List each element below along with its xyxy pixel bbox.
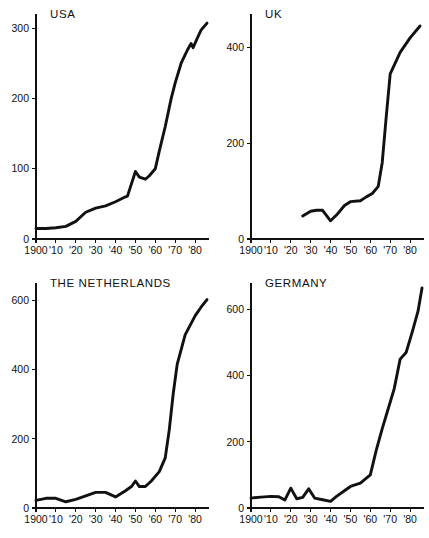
- chart-group-3: 1900'10'20'30'40'50'60'70'800200400600GE…: [226, 277, 424, 525]
- x-tick-label: 1900: [24, 513, 48, 525]
- y-tick-label: 400: [11, 363, 29, 375]
- series-line: [36, 300, 207, 502]
- series-line: [251, 288, 422, 501]
- x-tick-label: '50: [129, 244, 143, 256]
- y-tick-label: 200: [11, 433, 29, 445]
- x-tick-label: '60: [363, 513, 377, 525]
- x-tick-label: '20: [69, 513, 83, 525]
- x-tick-label: '30: [89, 513, 103, 525]
- panel-uk: 1900'10'20'30'40'50'60'70'800200400UK: [215, 0, 429, 269]
- y-tick-label: 0: [23, 233, 29, 245]
- x-tick-label: '60: [148, 513, 162, 525]
- panel-title: USA: [50, 8, 75, 20]
- series-line: [303, 26, 420, 221]
- x-tick-label: '30: [304, 513, 318, 525]
- x-tick-label: '70: [168, 244, 182, 256]
- y-tick-label: 0: [23, 502, 29, 514]
- x-tick-label: '10: [264, 244, 278, 256]
- y-tick-label: 0: [238, 233, 244, 245]
- chart-svg-netherlands: 1900'10'20'30'40'50'60'70'800200400600TH…: [0, 269, 214, 538]
- panel-title: THE NETHERLANDS: [50, 277, 171, 289]
- axis-lines: [251, 283, 424, 508]
- series-line: [36, 23, 207, 228]
- y-tick-label: 400: [226, 41, 244, 53]
- x-tick-label: '80: [403, 513, 417, 525]
- x-tick-label: '50: [344, 513, 358, 525]
- x-tick-label: '80: [188, 244, 202, 256]
- x-tick-label: '20: [284, 244, 298, 256]
- chart-group-2: 1900'10'20'30'40'50'60'70'800200400600TH…: [11, 277, 209, 525]
- x-tick-label: '40: [109, 244, 123, 256]
- x-tick-label: '80: [403, 244, 417, 256]
- x-tick-label: '40: [109, 513, 123, 525]
- y-tick-label: 200: [226, 436, 244, 448]
- x-tick-label: '70: [383, 244, 397, 256]
- axis-lines: [251, 14, 424, 239]
- axis-lines: [36, 14, 209, 239]
- x-tick-label: '60: [148, 244, 162, 256]
- panel-usa: 1900'10'20'30'40'50'60'70'800100200300US…: [0, 0, 214, 269]
- x-tick-label: '70: [383, 513, 397, 525]
- x-tick-label: '10: [264, 513, 278, 525]
- x-tick-label: '40: [324, 513, 338, 525]
- y-tick-label: 200: [226, 137, 244, 149]
- panel-title: GERMANY: [265, 277, 327, 289]
- y-tick-label: 600: [226, 303, 244, 315]
- panel-germany: 1900'10'20'30'40'50'60'70'800200400600GE…: [215, 269, 429, 538]
- chart-svg-uk: 1900'10'20'30'40'50'60'70'800200400UK: [215, 0, 429, 269]
- y-tick-label: 400: [226, 369, 244, 381]
- x-tick-label: 1900: [239, 513, 263, 525]
- panel-title: UK: [265, 8, 282, 20]
- x-tick-label: '50: [129, 513, 143, 525]
- x-tick-label: '10: [49, 513, 63, 525]
- chart-svg-usa: 1900'10'20'30'40'50'60'70'800100200300US…: [0, 0, 214, 269]
- axis-lines: [36, 283, 209, 508]
- x-tick-label: '60: [363, 244, 377, 256]
- panel-netherlands: 1900'10'20'30'40'50'60'70'800200400600TH…: [0, 269, 214, 538]
- x-tick-label: '30: [89, 244, 103, 256]
- y-tick-label: 0: [238, 502, 244, 514]
- y-tick-label: 600: [11, 294, 29, 306]
- x-tick-label: 1900: [239, 244, 263, 256]
- x-tick-label: '30: [304, 244, 318, 256]
- x-tick-label: '20: [69, 244, 83, 256]
- chart-group-1: 1900'10'20'30'40'50'60'70'800200400UK: [226, 8, 424, 256]
- x-tick-label: '20: [284, 513, 298, 525]
- y-tick-label: 100: [11, 162, 29, 174]
- x-tick-label: '10: [49, 244, 63, 256]
- chart-group-0: 1900'10'20'30'40'50'60'70'800100200300US…: [11, 8, 209, 256]
- y-tick-label: 200: [11, 92, 29, 104]
- x-tick-label: '70: [168, 513, 182, 525]
- x-tick-label: '50: [344, 244, 358, 256]
- figure-four-panel-line-charts: 1900'10'20'30'40'50'60'70'800100200300US…: [0, 0, 429, 538]
- y-tick-label: 300: [11, 22, 29, 34]
- x-tick-label: '80: [188, 513, 202, 525]
- chart-svg-germany: 1900'10'20'30'40'50'60'70'800200400600GE…: [215, 269, 429, 538]
- x-tick-label: '40: [324, 244, 338, 256]
- x-tick-label: 1900: [24, 244, 48, 256]
